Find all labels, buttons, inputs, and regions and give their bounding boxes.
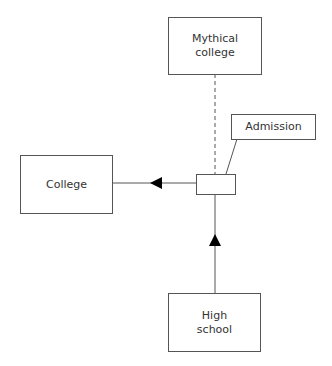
arrow-left-icon (150, 177, 162, 189)
node-junction (196, 174, 236, 195)
node-mythical-college: Mythical college (168, 17, 262, 75)
node-high-school: High school (168, 293, 261, 352)
arrow-up-icon (209, 234, 221, 246)
node-label: High school (197, 309, 232, 337)
node-label: Admission (245, 120, 301, 134)
node-label: Mythical college (192, 32, 238, 60)
node-college: College (20, 155, 113, 214)
callout-line-admission (226, 139, 237, 174)
node-label: College (46, 178, 87, 192)
node-admission: Admission (231, 114, 316, 140)
